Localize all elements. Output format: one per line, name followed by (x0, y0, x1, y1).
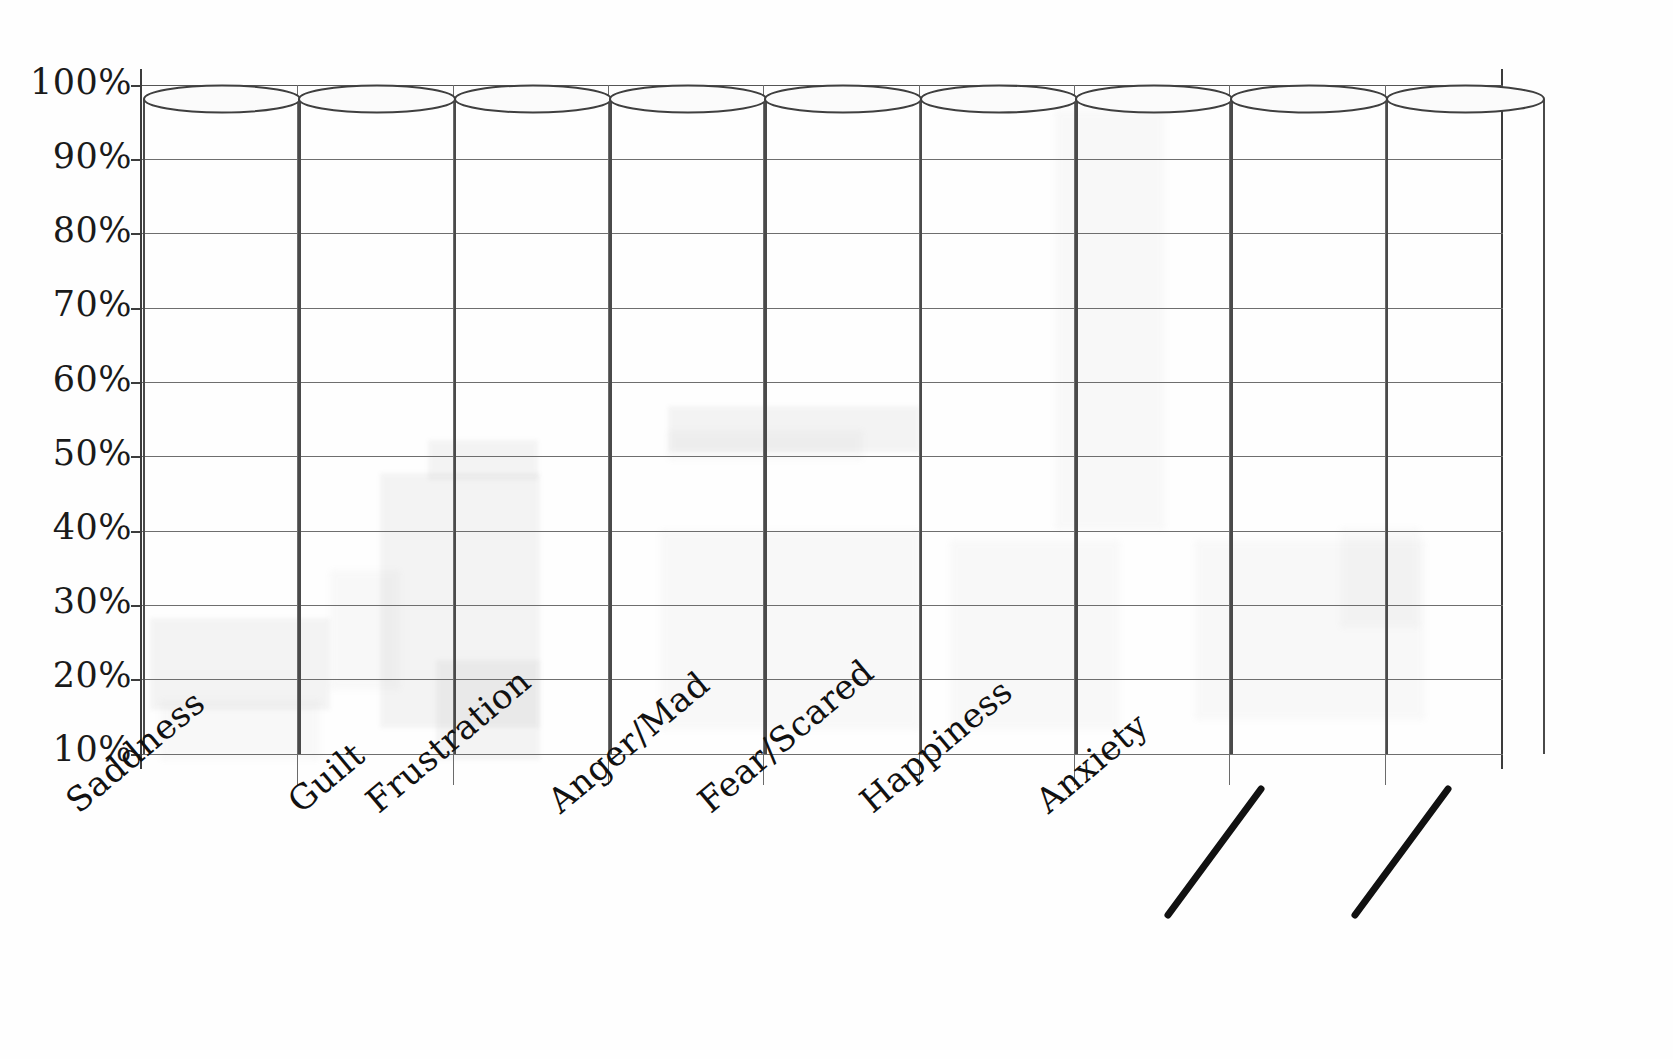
chart-page: 100% 90% 80% 70% 60% 50% 40% 30% 20% 10% (0, 0, 1673, 1059)
blank-category-write-in-line-2[interactable] (0, 0, 1673, 1059)
